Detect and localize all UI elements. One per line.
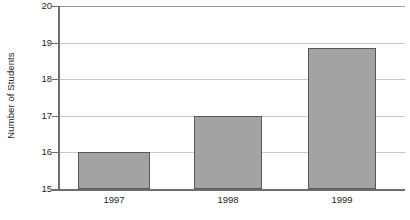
y-tick-label: 17 xyxy=(22,111,52,121)
y-tick-label: 19 xyxy=(22,38,52,48)
x-axis-tick-labels: 1997 1998 1999 xyxy=(58,194,405,216)
x-axis-line xyxy=(52,189,405,191)
bar-1998 xyxy=(194,116,262,189)
x-tick-label-1998: 1998 xyxy=(194,194,262,206)
plot-area xyxy=(58,6,405,189)
bars-layer xyxy=(58,6,405,189)
x-tick-label-1999: 1999 xyxy=(308,194,376,206)
y-tick-label: 18 xyxy=(22,74,52,84)
y-tick-label: 15 xyxy=(22,184,52,194)
bar-chart-figure: Number of Students 20 19 18 17 16 15 xyxy=(0,0,410,220)
bar-1997 xyxy=(78,152,150,189)
y-tick-label: 16 xyxy=(22,147,52,157)
y-axis-title-label: Number of Students xyxy=(5,52,16,138)
y-tick-label: 20 xyxy=(22,1,52,11)
y-axis-title: Number of Students xyxy=(0,0,20,190)
x-tick-label-1997: 1997 xyxy=(78,194,150,206)
bar-1999 xyxy=(308,48,376,189)
y-axis-line xyxy=(58,6,60,190)
y-axis-tick-labels: 20 19 18 17 16 15 xyxy=(22,0,52,196)
